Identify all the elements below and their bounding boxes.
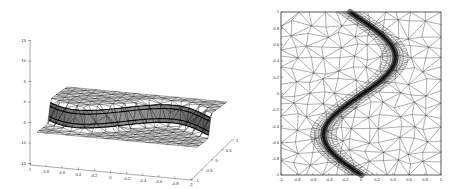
x-tick-label: -0.2 — [341, 177, 349, 182]
y-tick-label: 0 — [216, 158, 219, 163]
x-tick-label: 0 — [109, 175, 112, 180]
x-tick-label: -0.6 — [309, 177, 317, 182]
z-tick-label: 0 — [24, 99, 27, 104]
x-tick-label: 0.6 — [406, 177, 412, 182]
z-tick-label: 5 — [24, 79, 27, 84]
y-tick-label: 1 — [236, 138, 239, 143]
y-tick-label: -0.5 — [205, 168, 213, 173]
z-tick-label: 15 — [21, 38, 26, 43]
x-tick-label: -0.4 — [325, 177, 333, 182]
z-tick-label: -15 — [20, 161, 27, 166]
y-tick-label: -0.2 — [272, 107, 280, 112]
surface-plot-panel: 151050-5-10-1510.80.60.40.20-0.2-0.4-0.6… — [0, 0, 240, 189]
x-tick-label: -1 — [189, 182, 193, 187]
x-tick-label: 0.4 — [75, 172, 81, 177]
x-tick-label: 0.8 — [422, 177, 428, 182]
x-tick-label: 0.4 — [390, 177, 396, 182]
x-tick-label: -0.8 — [293, 177, 301, 182]
x-tick-label: 0.2 — [91, 173, 97, 178]
y-tick-label: 1 — [277, 9, 280, 14]
y-tick-label: -0.6 — [272, 140, 280, 145]
y-tick-label: 0 — [277, 91, 280, 96]
x-tick-label: -1 — [279, 177, 283, 182]
y-tick-label: 0.5 — [226, 148, 232, 153]
x-tick-label: 0.6 — [59, 170, 65, 175]
y-tick-label: -0.4 — [272, 124, 280, 129]
z-tick-label: 10 — [21, 58, 26, 63]
triangulation-plot: 10.80.60.40.20-0.2-0.4-0.6-0.8-1-1-0.8-0… — [240, 0, 456, 189]
y-tick-label: -1 — [195, 178, 199, 183]
y-tick-label: 0.4 — [273, 58, 279, 63]
z-tick-label: -10 — [20, 140, 27, 145]
x-tick-label: 1 — [440, 177, 443, 182]
x-tick-label: 0.8 — [43, 169, 49, 174]
x-tick-label: -0.4 — [139, 178, 147, 183]
surface-plot: 151050-5-10-1510.80.60.40.20-0.2-0.4-0.6… — [0, 0, 240, 189]
y-tick-label: 0.6 — [273, 42, 279, 47]
y-tick-label: 0.2 — [273, 75, 279, 80]
triangulation-plot-panel: 10.80.60.40.20-0.2-0.4-0.6-0.8-1-1-0.8-0… — [240, 0, 456, 189]
x-tick-label: 1 — [29, 167, 32, 172]
x-tick-label: -0.8 — [171, 181, 179, 186]
z-tick-label: -5 — [22, 120, 26, 125]
y-tick-label: 0.8 — [273, 26, 279, 31]
y-tick-label: -0.8 — [272, 156, 280, 161]
x-tick-label: 0.2 — [374, 177, 380, 182]
x-tick-label: -0.6 — [155, 179, 163, 184]
x-tick-label: -0.2 — [123, 176, 131, 181]
